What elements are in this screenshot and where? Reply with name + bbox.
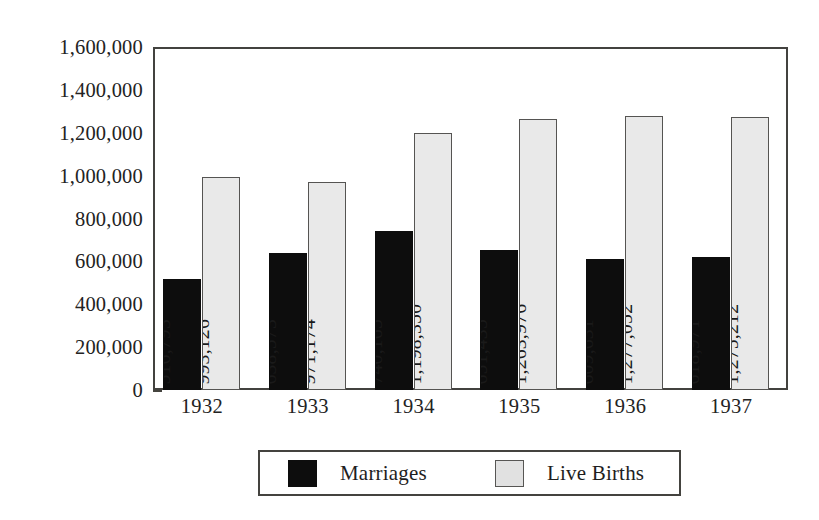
x-axis: 193219331934193519361937 [153,396,788,426]
y-axis-tick-label: 1,400,000 [59,80,143,101]
x-axis-tick-label: 1936 [604,396,646,417]
bar-group: 740,1651,198,350 [375,47,453,390]
bar-value-label: 516,793 [163,320,174,385]
y-axis-tick-label: 800,000 [75,208,143,229]
bars-layer: 516,793993,126638,573971,174740,1651,198… [153,47,788,390]
legend-entry[interactable]: Live Births [495,452,644,494]
light-swatch-icon [495,460,524,487]
bar-value-label: 1,263,976 [519,304,530,385]
bar-marriages[interactable]: 740,165 [375,231,413,390]
y-axis-tick-label: 0 [133,380,143,401]
bar-value-label: 971,174 [308,320,319,385]
bar-group: 609,6311,277,052 [586,47,664,390]
bar-group: 516,793993,126 [163,47,241,390]
x-axis-tick-label: 1932 [181,396,223,417]
bar-live-births[interactable]: 1,275,212 [731,117,769,390]
y-axis-tick-label: 400,000 [75,294,143,315]
x-axis-tick-label: 1933 [287,396,329,417]
x-axis-tick-label: 1937 [710,396,752,417]
x-axis-tick-label: 1935 [498,396,540,417]
y-axis: 1,600,0001,400,0001,200,0001,000,000800,… [0,47,143,390]
bar-chart-figure: 1,600,0001,400,0001,200,0001,000,000800,… [0,0,819,520]
bar-value-label: 651,435 [480,320,491,385]
y-axis-tick-label: 600,000 [75,251,143,272]
bar-live-births[interactable]: 993,126 [202,177,240,390]
bar-group: 618,9711,275,212 [692,47,770,390]
legend-entry[interactable]: Marriages [288,452,427,494]
bar-marriages[interactable]: 638,573 [269,253,307,390]
chart-legend: MarriagesLive Births [258,450,681,496]
bar-value-label: 618,971 [692,320,703,385]
bar-marriages[interactable]: 609,631 [586,259,624,390]
y-axis-tick-label: 1,600,000 [59,37,143,58]
dark-swatch-icon [288,460,317,487]
y-axis-major-tick [153,390,162,392]
bar-marriages[interactable]: 618,971 [692,257,730,390]
bar-value-label: 638,573 [269,320,280,385]
bar-live-births[interactable]: 1,263,976 [519,119,557,390]
legend-label: Marriages [340,461,427,486]
bar-live-births[interactable]: 971,174 [308,182,346,390]
bar-value-label: 609,631 [586,320,597,385]
bar-group: 638,573971,174 [269,47,347,390]
bar-live-births[interactable]: 1,277,052 [625,116,663,390]
bar-value-label: 740,165 [375,320,386,385]
y-axis-tick-label: 1,000,000 [59,165,143,186]
bar-value-label: 1,198,350 [414,304,425,385]
bar-group: 651,4351,263,976 [480,47,558,390]
bar-live-births[interactable]: 1,198,350 [414,133,452,390]
bar-value-label: 993,126 [202,320,213,385]
bar-marriages[interactable]: 516,793 [163,279,201,390]
x-axis-tick-label: 1934 [392,396,434,417]
bar-value-label: 1,275,212 [731,304,742,385]
legend-label: Live Births [547,461,644,486]
y-axis-tick-label: 1,200,000 [59,123,143,144]
bar-marriages[interactable]: 651,435 [480,250,518,390]
bar-value-label: 1,277,052 [625,304,636,385]
y-axis-tick-label: 200,000 [75,337,143,358]
